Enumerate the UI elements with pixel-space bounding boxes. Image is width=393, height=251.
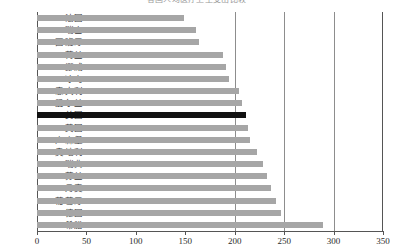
bar-葡萄牙 xyxy=(37,198,276,204)
x-tick-0 xyxy=(37,231,38,235)
bar-row: 冰岛 xyxy=(0,73,393,85)
bar-row: 西班牙 xyxy=(0,36,393,48)
x-tick-label-150: 150 xyxy=(179,236,193,246)
x-tick-300 xyxy=(334,231,335,235)
bar-row: 丹麦 xyxy=(0,182,393,194)
bar-瑞士 xyxy=(37,27,196,33)
bar-美国 xyxy=(37,112,246,118)
bar-row: 荷兰 xyxy=(0,49,393,61)
bar-卢森堡 xyxy=(37,137,250,143)
bar-row: 意大利 xyxy=(0,85,393,97)
bar-丹麦 xyxy=(37,185,271,191)
bar-row: 奥地利 xyxy=(0,146,393,158)
bar-法国 xyxy=(37,15,184,21)
bar-芬兰 xyxy=(37,173,267,179)
x-tick-100 xyxy=(136,231,137,235)
bar-德国 xyxy=(37,210,281,216)
x-tick-200 xyxy=(235,231,236,235)
x-tick-label-200: 200 xyxy=(228,236,242,246)
bar-row: 爱尔兰 xyxy=(0,97,393,109)
bar-西班牙 xyxy=(37,39,199,45)
bar-row: 卢森堡 xyxy=(0,134,393,146)
bar-row: 挪威 xyxy=(0,61,393,73)
bar-row: 德国 xyxy=(0,207,393,219)
bar-row: 美国 xyxy=(0,109,393,121)
x-tick-label-350: 350 xyxy=(376,236,390,246)
x-axis-line xyxy=(37,231,384,232)
bar-爱尔兰 xyxy=(37,100,242,106)
x-tick-label-50: 50 xyxy=(82,236,91,246)
x-tick-150 xyxy=(185,231,186,235)
bar-row: 法国 xyxy=(0,12,393,24)
bar-意大利 xyxy=(37,88,239,94)
bar-row: 芬兰 xyxy=(0,170,393,182)
chart-title: 各国人均医疗卫生支出比较 xyxy=(0,0,393,4)
bar-row: 希腊 xyxy=(0,219,393,231)
bar-英国 xyxy=(37,125,248,131)
bar-荷兰 xyxy=(37,52,223,58)
bar-chart: 各国人均医疗卫生支出比较 050100150200250300350 法国瑞士西… xyxy=(0,0,393,251)
x-tick-label-0: 0 xyxy=(35,236,40,246)
bar-row: 瑞典 xyxy=(0,158,393,170)
bar-挪威 xyxy=(37,64,226,70)
bar-希腊 xyxy=(37,222,323,228)
bar-row: 葡萄牙 xyxy=(0,195,393,207)
x-tick-350 xyxy=(383,231,384,235)
x-tick-50 xyxy=(86,231,87,235)
bar-row: 英国 xyxy=(0,122,393,134)
x-tick-label-300: 300 xyxy=(327,236,341,246)
x-tick-250 xyxy=(284,231,285,235)
bar-瑞典 xyxy=(37,161,263,167)
bar-冰岛 xyxy=(37,76,229,82)
x-tick-label-100: 100 xyxy=(129,236,143,246)
bar-奥地利 xyxy=(37,149,257,155)
x-tick-label-250: 250 xyxy=(277,236,291,246)
bar-row: 瑞士 xyxy=(0,24,393,36)
